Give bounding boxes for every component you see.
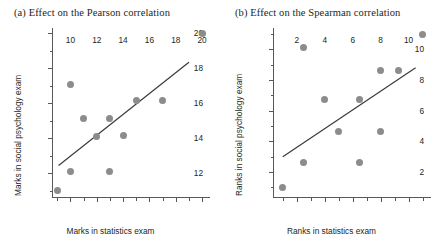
data-point <box>54 187 61 194</box>
panel-b-x-tick-label: 6 <box>350 35 355 45</box>
panel-b-y-tick-label: 4 <box>419 136 424 146</box>
data-point <box>356 159 363 166</box>
data-point <box>377 67 384 74</box>
panel-b-y-minor-tick <box>271 126 274 127</box>
panel-a-x-minor-tick <box>189 198 190 201</box>
panel-b-x-tick <box>297 198 298 202</box>
panel-a-x-tick-label: 12 <box>92 35 101 45</box>
data-point <box>300 44 307 51</box>
panel-a-x-tick-label: 18 <box>171 35 180 45</box>
panel-b-y-tick-label: 6 <box>419 106 424 116</box>
data-point <box>120 132 127 139</box>
panel-a-y-tick <box>48 138 52 139</box>
panel-b-x-tick <box>381 198 382 202</box>
panel-b-x-tick-label: 10 <box>404 35 413 45</box>
panel-a-title: (a) Effect on the Pearson correlation <box>14 7 170 18</box>
panel-b-regression-line <box>273 28 431 198</box>
panel-a-y-minor-tick <box>50 51 53 52</box>
panel-b-y-tick <box>269 111 273 112</box>
data-point <box>159 97 166 104</box>
panel-a-y-tick-label: 12 <box>194 168 203 178</box>
panel-a-x-tick-label: 10 <box>66 35 75 45</box>
panel-b-y-tick-label: 2 <box>419 167 424 177</box>
data-point <box>106 168 113 175</box>
data-point <box>93 133 100 140</box>
panel-b-x-minor-tick <box>283 198 284 201</box>
panel-b-y-tick-label: 10 <box>415 44 424 54</box>
panel-b-x-tick-label: 4 <box>322 35 327 45</box>
panel-a-x-minor-tick <box>84 198 85 201</box>
panel-a-x-tick <box>97 198 98 202</box>
correlation-figure: (a) Effect on the Pearson correlation Ma… <box>0 0 443 246</box>
data-point <box>395 67 402 74</box>
panel-b-y-tick <box>269 172 273 173</box>
panel-b-x-tick-label: 8 <box>378 35 383 45</box>
panel-a-x-tick <box>176 198 177 202</box>
panel-a-x-axis-label: Marks in statistics exam <box>0 226 221 236</box>
data-point <box>419 31 426 38</box>
panel-b-x-axis-label: Ranks in statistics exam <box>221 226 442 236</box>
data-point <box>67 81 74 88</box>
panel-b-y-minor-tick <box>271 157 274 158</box>
panel-b-x-tick <box>325 198 326 202</box>
panel-b-x-minor-tick <box>311 198 312 201</box>
panel-b-y-tick-label: 8 <box>419 75 424 85</box>
panel-a-plot-area: 1214161820101214161820 <box>52 28 210 198</box>
data-point <box>106 115 113 122</box>
panel-b-y-minor-tick <box>271 95 274 96</box>
panel-a-x-minor-tick <box>110 198 111 201</box>
panel-b-x-minor-tick <box>423 198 424 201</box>
panel-b-y-axis-label: Ranks in social psychology exam <box>234 74 244 196</box>
panel-a-x-tick <box>149 198 150 202</box>
panel-a-y-tick-label: 14 <box>194 133 203 143</box>
panel-b-x-tick <box>409 198 410 202</box>
panel-b-y-minor-tick <box>271 65 274 66</box>
panel-b-y-minor-tick <box>271 187 274 188</box>
data-point <box>67 168 74 175</box>
panel-a-x-minor-tick <box>163 198 164 201</box>
panel-a-x-tick <box>70 198 71 202</box>
panel-a-x-tick <box>202 198 203 202</box>
panel-a-y-minor-tick <box>50 86 53 87</box>
panel-a-y-tick-label: 16 <box>194 98 203 108</box>
panel-b-plot-area: 246810246810 <box>273 28 431 198</box>
data-point <box>356 96 363 103</box>
panel-a-y-minor-tick <box>50 156 53 157</box>
panel-a-x-minor-tick <box>57 198 58 201</box>
panel-a-y-minor-tick <box>50 121 53 122</box>
panel-b-y-minor-tick <box>271 34 274 35</box>
data-point <box>199 30 206 37</box>
panel-a-x-tick-label: 16 <box>145 35 154 45</box>
data-point <box>300 159 307 166</box>
panel-a-x-tick <box>123 198 124 202</box>
panel-b-y-axis <box>273 28 274 198</box>
panel-spearman: (b) Effect on the Spearman correlation R… <box>221 0 442 246</box>
panel-pearson: (a) Effect on the Pearson correlation Ma… <box>0 0 221 246</box>
panel-a-y-tick <box>48 68 52 69</box>
data-point <box>80 115 87 122</box>
panel-b-title: (b) Effect on the Spearman correlation <box>235 7 400 18</box>
panel-b-x-minor-tick <box>367 198 368 201</box>
panel-a-y-axis-label: Marks in social psychology exam <box>13 75 23 196</box>
panel-a-regression-line <box>52 28 210 198</box>
panel-a-y-tick <box>48 103 52 104</box>
data-point <box>321 96 328 103</box>
panel-b-x-minor-tick <box>339 198 340 201</box>
panel-b-x-tick <box>353 198 354 202</box>
panel-a-y-axis <box>52 28 53 198</box>
panel-a-y-tick-label: 18 <box>194 63 203 73</box>
panel-b-y-tick <box>269 80 273 81</box>
data-point <box>133 97 140 104</box>
panel-a-x-tick-label: 14 <box>118 35 127 45</box>
panel-a-y-tick <box>48 33 52 34</box>
panel-b-y-tick <box>269 49 273 50</box>
data-point <box>335 128 342 135</box>
data-point <box>377 128 384 135</box>
panel-b-x-minor-tick <box>395 198 396 201</box>
data-point <box>279 184 286 191</box>
panel-a-y-minor-tick <box>50 191 53 192</box>
panel-b-y-tick <box>269 141 273 142</box>
panel-a-x-axis <box>52 197 210 198</box>
panel-a-y-tick <box>48 173 52 174</box>
panel-a-x-minor-tick <box>136 198 137 201</box>
